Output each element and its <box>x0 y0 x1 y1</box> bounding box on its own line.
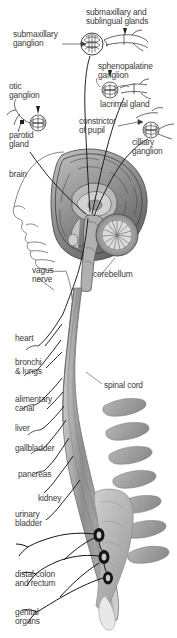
label-genital-organs: genital organs <box>15 608 40 626</box>
otic-nerve-branches <box>7 99 30 132</box>
label-pancreas: pancreas <box>18 470 51 479</box>
label-distal-colon-rectum: distal colon and rectum <box>15 570 55 588</box>
label-gallbladder: gallbladder <box>15 444 54 453</box>
cerebellum <box>96 214 138 256</box>
label-vagus-nerve: vagus nerve <box>32 266 54 284</box>
label-constrictor-of-pupil: constrictor of pupil <box>79 117 116 135</box>
submaxillary-sublingual-glands-glyph <box>104 30 148 51</box>
label-parotid-gland: parotid gland <box>9 131 34 149</box>
label-cerebellum: cerebellum <box>93 270 132 279</box>
label-liver: liver <box>15 424 30 433</box>
label-kidney: kidney <box>38 494 61 503</box>
otic-arrow <box>36 106 40 114</box>
label-submaxillary-ganglion: submaxillary ganglion <box>13 30 58 48</box>
label-ciliary-ganglion: cilliary ganglion <box>132 138 162 156</box>
glands-arrow <box>123 28 127 35</box>
label-submaxillary-sublingual-glands: submaxillary and sublingual glands <box>86 8 148 26</box>
label-bronchi-lungs: bronchi & lungs <box>15 358 42 376</box>
sphenopalatine-ganglion-cluster <box>97 78 129 98</box>
label-spinal-cord: spinal cord <box>104 381 143 390</box>
label-otic-ganglion: otic ganglion <box>9 82 39 100</box>
label-brain: brain <box>9 170 27 179</box>
label-urinary-bladder: urinary bladder <box>15 510 42 528</box>
label-sphenopalatine-ganglion: sphenopalatine ganglion <box>98 62 153 80</box>
lacrimal-gland-glyph <box>120 79 151 99</box>
otic-ganglion-cluster <box>7 99 46 132</box>
parasympathetic-nervous-system-diagram: submaxillary and sublingual glands subma… <box>0 0 177 638</box>
label-heart: heart <box>15 334 33 343</box>
label-lacrimal-gland: lacrimal gland <box>100 100 150 109</box>
label-alimentary-canal: alimentary canal <box>15 395 52 413</box>
